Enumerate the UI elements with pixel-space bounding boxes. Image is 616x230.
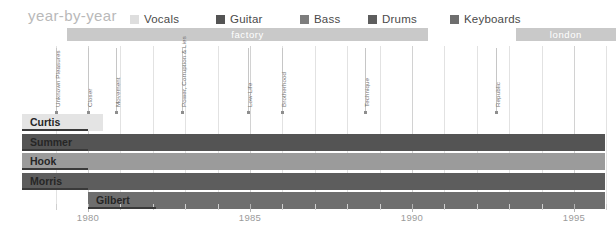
legend-swatch-icon: [450, 15, 459, 24]
member-label-underline: [88, 207, 156, 209]
album-label: Power, Corruption & Lies: [180, 36, 187, 107]
album-label: Technique: [363, 78, 370, 107]
member-bar[interactable]: [52, 153, 604, 170]
axis-tick: [509, 204, 510, 210]
axis-tick: [477, 204, 478, 210]
legend-item-keyboards[interactable]: Keyboards: [450, 9, 521, 23]
axis-tick: [56, 204, 57, 210]
axis-tick: [606, 204, 607, 210]
axis-tick: [218, 204, 219, 210]
album-label: Low-Life: [246, 83, 253, 107]
axis-tick-label: 1980: [77, 212, 99, 223]
axis-tick-label: 1990: [401, 212, 423, 223]
legend-item-drums[interactable]: Drums: [368, 9, 417, 23]
legend-label: Bass: [314, 13, 340, 25]
gridline: [606, 46, 607, 204]
page-title: year-by-year: [28, 7, 117, 24]
member-row-curtis[interactable]: Curtis: [0, 114, 590, 131]
legend-label: Drums: [382, 13, 417, 25]
member-row-morris[interactable]: Morris: [0, 173, 590, 190]
member-bar[interactable]: [52, 173, 604, 190]
legend-label: Keyboards: [464, 13, 521, 25]
axis-tick: [347, 204, 348, 210]
member-row-hook[interactable]: Hook: [0, 153, 590, 170]
plot-area: factorylondon Unknown PleasuresCloserMov…: [0, 26, 590, 230]
axis-tick-label: 1985: [239, 212, 261, 223]
album-label: Closer: [86, 89, 93, 107]
label-band-london: london: [516, 28, 616, 41]
legend-swatch-icon: [130, 15, 139, 24]
album-label: Movement: [114, 77, 121, 107]
legend-swatch-icon: [368, 15, 377, 24]
member-bar[interactable]: [52, 134, 604, 151]
axis-tick: [380, 204, 381, 210]
label-band-factory: factory: [67, 28, 428, 41]
member-label-underline: [22, 129, 88, 131]
legend-item-vocals[interactable]: Vocals: [130, 9, 179, 23]
legend-swatch-icon: [300, 15, 309, 24]
axis-tick: [185, 204, 186, 210]
axis-tick: [574, 204, 575, 212]
axis-tick-label: 1995: [563, 212, 585, 223]
member-row-summer[interactable]: Summer: [0, 134, 590, 151]
album-label: Unknown Pleasures: [54, 50, 61, 107]
legend-label: Vocals: [144, 13, 179, 25]
legend-item-guitar[interactable]: Guitar: [216, 9, 263, 23]
legend-swatch-icon: [216, 15, 225, 24]
chart-header: year-by-year VocalsGuitarBassDrumsKeyboa…: [0, 0, 590, 26]
member-label-underline: [22, 149, 88, 151]
axis-tick: [282, 204, 283, 210]
album-label: Republic: [494, 82, 501, 107]
axis-tick: [542, 204, 543, 210]
member-label-underline: [22, 188, 88, 190]
album-label: Brotherhood: [280, 72, 287, 107]
legend-item-bass[interactable]: Bass: [300, 9, 340, 23]
axis-tick: [444, 204, 445, 210]
member-label-underline: [22, 168, 88, 170]
legend-label: Guitar: [230, 13, 263, 25]
axis-tick: [412, 204, 413, 212]
axis-tick: [315, 204, 316, 210]
axis-tick: [250, 204, 251, 212]
